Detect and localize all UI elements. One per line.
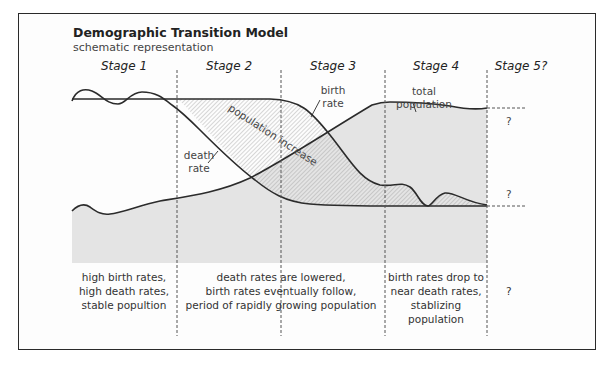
stage-1-caption-line2: high death rates,	[79, 285, 169, 297]
stage-1-caption-line1: high birth rates,	[82, 271, 166, 283]
stage5-population-unknown: ?	[506, 115, 512, 127]
diagram-subtitle: schematic representation	[73, 41, 214, 54]
stage5-rate-unknown: ?	[506, 188, 512, 200]
stage-5-label: Stage 5?	[495, 59, 548, 73]
stage-4-label: Stage 4	[413, 59, 459, 73]
birth-rate-leader	[311, 100, 320, 117]
stage-3-label: Stage 3	[310, 59, 356, 73]
stage-2-label: Stage 2	[206, 59, 252, 73]
stage-5-caption: ?	[506, 285, 512, 297]
stage-4-caption-line4: population	[408, 313, 464, 325]
stage-2-3-caption-line1: death rates are lowered,	[216, 271, 345, 283]
total-population-label-line2: population	[396, 98, 452, 110]
demographic-transition-diagram: Demographic Transition Model schematic r…	[0, 0, 614, 367]
stage-4-caption-line1: birth rates drop to	[388, 271, 484, 283]
birth-rate-label-line2: rate	[322, 97, 343, 109]
diagram-canvas: Demographic Transition Model schematic r…	[0, 0, 614, 367]
diagram-title: Demographic Transition Model	[73, 25, 288, 40]
stage-2-3-caption-line2: birth rates eventually follow,	[206, 285, 357, 297]
death-rate-label-line2: rate	[188, 162, 209, 174]
stage-1-label: Stage 1	[101, 59, 147, 73]
death-rate-label-line1: death	[184, 149, 214, 161]
total-population-label-line1: total	[412, 85, 436, 97]
stage-4-caption-line3: stablizing	[411, 299, 461, 311]
birth-rate-label-line1: birth	[321, 84, 346, 96]
stage-2-3-caption-line3: period of rapidly growing population	[186, 299, 377, 311]
stage-4-caption-line2: near death rates,	[390, 285, 481, 297]
stage-1-caption-line3: stable popultion	[82, 299, 167, 311]
